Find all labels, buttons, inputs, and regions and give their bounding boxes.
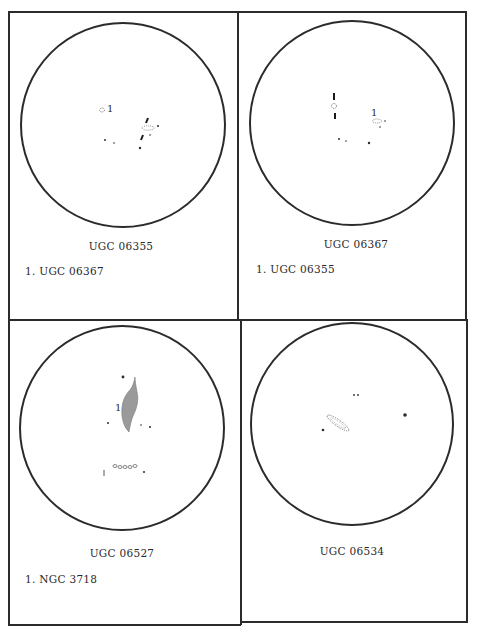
target-galaxy-icon — [326, 413, 351, 433]
field-stars — [322, 394, 407, 431]
companion-galaxy-1-icon — [122, 377, 138, 432]
companion-galaxy-1-icon — [100, 108, 105, 112]
field-circle — [250, 21, 454, 225]
panel-note: 1. UGC 06355 — [256, 263, 335, 275]
target-galaxy-icon — [332, 93, 337, 119]
field-stars — [104, 125, 159, 149]
panel-title: UGC 06527 — [90, 547, 155, 559]
finder-chart-sheet: 1 UGC 06355 1. UGC 06367 — [0, 0, 477, 632]
companion-galaxy-1-icon — [373, 119, 382, 123]
companion-label: 1 — [107, 103, 113, 114]
panel-ugc-06355: 1 UGC 06355 1. UGC 06367 — [0, 0, 238, 320]
panel-title: UGC 06355 — [89, 240, 154, 252]
companion-label: 1 — [371, 107, 377, 118]
panel-ugc-06367: 1 UGC 06367 1. UGC 06355 — [238, 0, 468, 320]
finder-chart-ugc-06534 — [241, 320, 468, 622]
field-circle — [251, 323, 453, 525]
field-circle — [21, 23, 225, 227]
panel-title: UGC 06367 — [324, 238, 389, 250]
panel-ugc-06534: UGC 06534 — [241, 320, 468, 622]
field-circle — [20, 326, 224, 530]
panel-note: 1. NGC 3718 — [25, 573, 97, 585]
panel-note: 1. UGC 06367 — [25, 265, 104, 277]
companion-label: 1 — [115, 402, 121, 413]
panel-ugc-06527: 1 UGC 06527 1. NGC 3718 — [0, 320, 240, 625]
target-galaxy-icon — [141, 118, 154, 140]
target-galaxy-icon — [104, 465, 137, 477]
field-stars — [338, 120, 386, 144]
panel-title: UGC 06534 — [320, 545, 385, 557]
